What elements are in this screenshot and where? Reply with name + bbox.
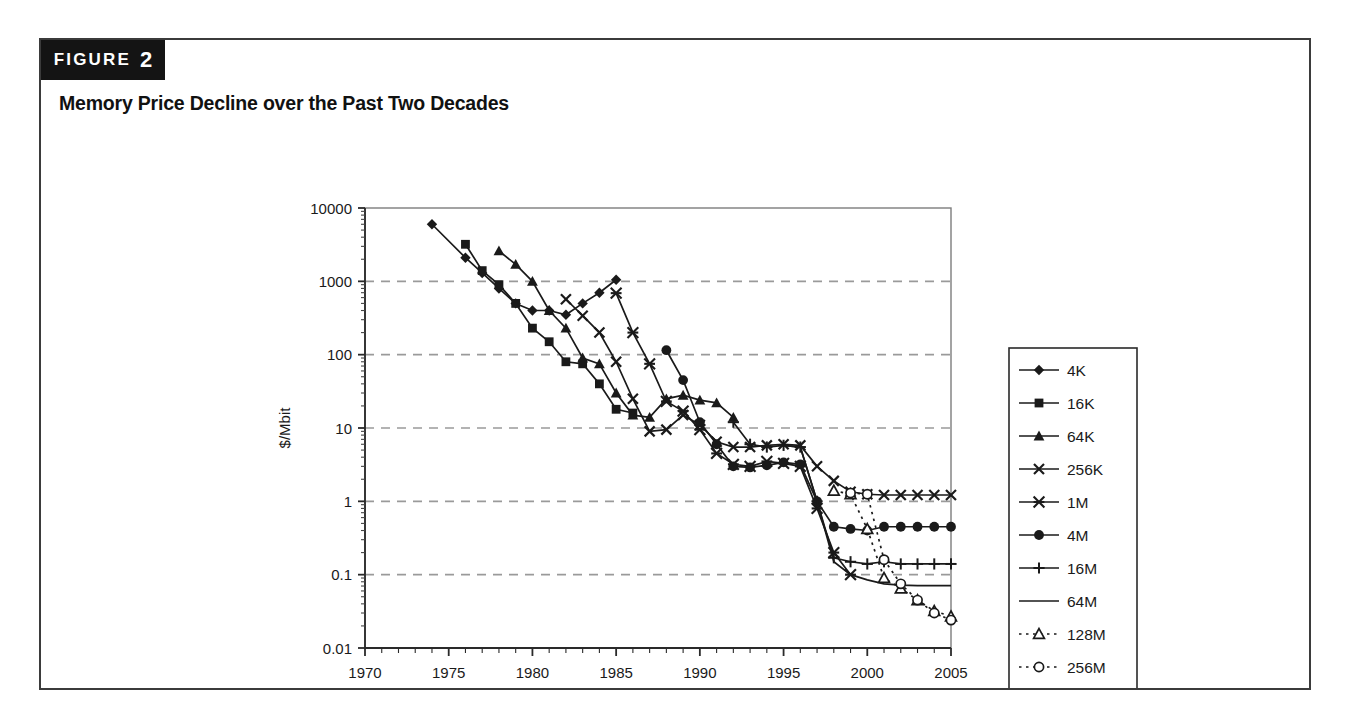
data-point-marker	[611, 357, 621, 367]
legend-label: 16K	[1067, 395, 1095, 412]
data-point-marker	[527, 305, 537, 315]
legend-label: 1M	[1067, 494, 1089, 511]
legend-label: 128M	[1067, 626, 1106, 643]
series-4K	[427, 219, 622, 320]
legend-label: 16M	[1067, 560, 1097, 577]
legend-label: 256K	[1067, 461, 1104, 478]
data-point-marker	[896, 522, 906, 532]
data-point-marker	[846, 524, 856, 534]
data-point-marker	[561, 294, 571, 304]
data-point-marker	[946, 522, 956, 532]
data-point-marker	[578, 311, 588, 321]
series-128M	[828, 485, 956, 621]
data-point-marker	[912, 558, 923, 569]
data-point-marker	[661, 345, 671, 355]
data-point-marker	[863, 490, 872, 499]
series-256M	[846, 488, 956, 624]
y-tick-label: 10000	[310, 200, 352, 217]
data-point-marker	[862, 558, 873, 569]
data-series-layer	[427, 219, 957, 625]
series-line	[666, 350, 951, 530]
data-point-marker	[695, 417, 705, 427]
x-tick-label: 2000	[851, 664, 884, 681]
legend-label: 4M	[1067, 527, 1089, 544]
series-64K	[494, 246, 739, 422]
figure-banner: FIGURE 2	[41, 40, 165, 80]
series-line	[834, 491, 951, 617]
data-point-marker	[745, 463, 755, 473]
x-tick-label: 1970	[348, 664, 381, 681]
data-point-marker	[628, 394, 638, 404]
data-point-marker	[478, 266, 487, 275]
data-point-marker	[461, 240, 470, 249]
data-point-marker	[930, 608, 939, 617]
data-point-marker	[761, 441, 772, 452]
y-axis-tick-labels: 0.010.1110100100010000	[310, 200, 352, 657]
data-point-marker	[1035, 399, 1044, 408]
data-point-marker	[913, 522, 923, 532]
data-point-marker	[594, 328, 604, 338]
series-16K	[461, 240, 637, 418]
data-point-marker	[945, 558, 956, 569]
series-4M	[661, 345, 955, 535]
data-point-marker	[612, 405, 621, 414]
data-point-marker	[595, 379, 604, 388]
x-axis-tick-labels: 19701975198019851990199520002005	[348, 664, 967, 681]
data-point-marker	[561, 310, 571, 320]
legend-label: 64M	[1067, 593, 1097, 610]
y-axis-title: $/Mbit	[276, 407, 293, 449]
data-point-marker	[779, 457, 789, 467]
memory-price-line-chart: 0.010.1110100100010000 19701975198019851…	[41, 126, 1309, 688]
x-tick-label: 2005	[934, 664, 967, 681]
x-tick-label: 1980	[516, 664, 549, 681]
chart-area: 0.010.1110100100010000 19701975198019851…	[41, 126, 1309, 688]
axis-ticks	[358, 208, 951, 656]
x-tick-label: 1995	[767, 664, 800, 681]
series-line	[465, 244, 632, 413]
data-point-marker	[494, 246, 505, 256]
data-point-marker	[611, 288, 622, 299]
data-point-marker	[913, 595, 922, 604]
legend-label: 64K	[1067, 428, 1095, 445]
y-tick-label: 100	[327, 346, 352, 363]
data-point-marker	[879, 555, 888, 564]
x-tick-label: 1975	[432, 664, 465, 681]
series-line	[851, 493, 951, 620]
data-point-marker	[829, 522, 839, 532]
data-point-marker	[611, 388, 622, 398]
figure-panel: FIGURE 2 Memory Price Decline over the P…	[39, 38, 1311, 690]
data-point-marker	[712, 439, 722, 449]
data-point-marker	[946, 616, 955, 625]
data-point-marker	[895, 558, 906, 569]
data-point-marker	[896, 579, 905, 588]
y-tick-label: 1000	[319, 273, 352, 290]
data-point-marker	[929, 522, 939, 532]
data-point-marker	[678, 375, 688, 385]
data-point-marker	[812, 461, 822, 471]
x-tick-label: 1985	[599, 664, 632, 681]
figure-title: Memory Price Decline over the Past Two D…	[59, 92, 509, 115]
data-point-marker	[879, 522, 889, 532]
y-tick-label: 10	[335, 420, 352, 437]
series-line	[432, 224, 616, 314]
data-point-marker	[644, 358, 655, 369]
data-point-marker	[627, 327, 638, 338]
data-point-marker	[929, 558, 940, 569]
data-point-marker	[562, 357, 571, 366]
chart-legend: 4K16K64K256K1M4M16M64M128M256M	[1009, 348, 1137, 688]
y-axis-title-text: $/Mbit	[276, 407, 293, 449]
y-tick-label: 0.01	[323, 640, 352, 657]
y-tick-label: 1	[344, 493, 352, 510]
data-point-marker	[846, 488, 855, 497]
data-point-marker	[577, 298, 587, 308]
data-point-marker	[495, 280, 504, 289]
figure-banner-number: 2	[140, 49, 152, 71]
data-point-marker	[528, 324, 537, 333]
data-point-marker	[511, 299, 520, 308]
x-tick-label: 1990	[683, 664, 716, 681]
data-point-marker	[762, 460, 772, 470]
data-point-marker	[1034, 662, 1043, 671]
legend-label: 256M	[1067, 659, 1106, 676]
data-point-marker	[845, 556, 856, 567]
figure-banner-word: FIGURE	[54, 50, 131, 70]
